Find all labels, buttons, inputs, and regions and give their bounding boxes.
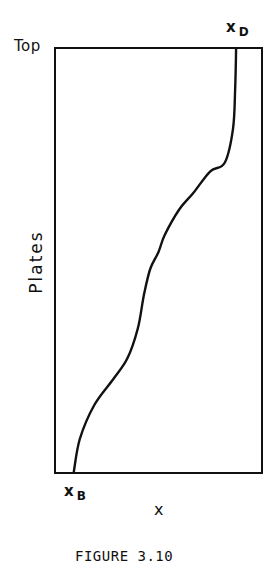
- x-axis-label: x: [154, 500, 163, 519]
- end-label-xd: xD: [226, 18, 249, 39]
- y-axis-label: Plates: [26, 230, 46, 293]
- plot-frame: [55, 48, 262, 473]
- figure-caption: FIGURE 3.10: [75, 548, 173, 564]
- top-label: Top: [14, 37, 41, 55]
- start-label-xb: xB: [64, 482, 86, 503]
- composition-curve: [74, 48, 237, 473]
